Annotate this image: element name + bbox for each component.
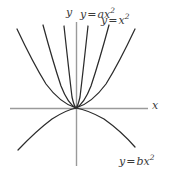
- parabola-family-figure: y y=ax2 y=x2 x y=bx2: [0, 0, 177, 177]
- y-axis-label: y: [66, 7, 72, 18]
- curve-a-operator: =: [86, 8, 97, 21]
- curve-x2-exponent: 2: [125, 12, 130, 21]
- curve-label-y-equals-x-squared: y=x2: [101, 13, 129, 26]
- curve-b-exponent: 2: [150, 153, 155, 162]
- curve-b-operator: =: [125, 155, 136, 168]
- curve-x2-operator: =: [107, 14, 118, 27]
- x-axis-label: x: [152, 100, 158, 111]
- curve-label-y-equals-b-x-squared: y=bx2: [119, 154, 154, 167]
- plot-canvas: [0, 0, 177, 177]
